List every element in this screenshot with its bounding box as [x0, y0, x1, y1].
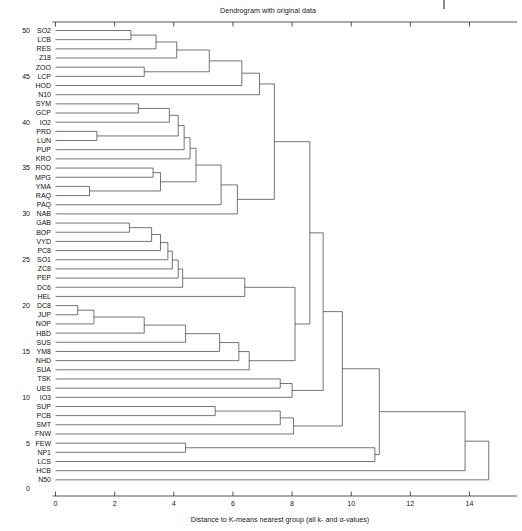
x-tick-label-4: 4 — [172, 499, 176, 508]
bottom-axis: 02468101214 — [53, 492, 518, 508]
leaf-index-tick-40: 40 — [22, 119, 30, 126]
leaf-label-so2: SO2 — [37, 27, 51, 34]
dendrogram-link — [56, 126, 185, 150]
leaf-index-tick-30: 30 — [22, 210, 30, 217]
dendrogram-link — [56, 131, 97, 140]
dendrogram-link — [56, 243, 168, 260]
leaf-label-dc6: DC6 — [37, 284, 51, 291]
leaf-label-n50: N50 — [38, 476, 51, 483]
leaf-label-hcb: HCB — [36, 467, 51, 474]
leaf-label-hel: HEL — [37, 293, 51, 300]
dendrogram-plot-area: Dendrogram with original data SO2LCBRESZ… — [0, 0, 522, 531]
leaf-label-pep: PEP — [37, 274, 51, 281]
leaf-label-gab: GAB — [36, 219, 51, 226]
leaf-label-z18: Z18 — [39, 54, 51, 61]
leaf-label-bop: BOP — [36, 229, 51, 236]
dendrogram-link — [56, 104, 139, 113]
dendrogram-link — [294, 312, 343, 426]
dendrogram-link — [56, 67, 145, 76]
dendrogram-link — [56, 384, 293, 398]
leaf-label-n10: N10 — [38, 91, 51, 98]
dendrogram-link — [56, 35, 157, 49]
dendrogram-link — [274, 142, 309, 324]
leaf-label-few: FEW — [35, 440, 51, 447]
leaf-index-tick-35: 35 — [22, 164, 30, 171]
dendrogram-link — [56, 379, 281, 388]
dendrogram-link — [56, 42, 177, 58]
leaf-label-nhd: NHD — [36, 357, 51, 364]
leaf-label-raq: RAQ — [36, 192, 52, 200]
leaf-label-fnw: FNW — [35, 430, 51, 437]
dendrogram-link — [56, 411, 281, 425]
leaf-index-tick-15: 15 — [22, 348, 30, 355]
dendrogram-link — [237, 84, 274, 199]
dendrogram-link — [56, 61, 242, 86]
leaf-label-rod: ROD — [35, 164, 51, 171]
leaf-label-sus: SUS — [37, 339, 52, 346]
leaf-label-paq: PAQ — [37, 201, 52, 209]
x-tick-label-8: 8 — [290, 499, 294, 508]
leaf-index-tick-45: 45 — [22, 73, 30, 80]
x-axis-label-group: Distance to K-means nearest group (all k… — [191, 515, 369, 524]
dendrogram-links — [56, 31, 489, 480]
dendrogram-link — [56, 108, 170, 122]
dendrogram-link — [56, 418, 294, 434]
leaf-label-pc8: PC8 — [37, 247, 51, 254]
dendrogram-link — [56, 448, 375, 462]
leaf-label-io3: IO3 — [40, 394, 51, 401]
dendrogram-link — [56, 310, 94, 324]
chart-title: Dendrogram with original data — [220, 6, 316, 15]
leaf-label-ues: UES — [37, 385, 52, 392]
x-tick-label-14: 14 — [466, 499, 474, 508]
leaf-index-tick-20: 20 — [22, 302, 30, 309]
leaf-label-gcp: GCP — [36, 109, 52, 116]
leaf-label-lcs: LCS — [37, 458, 51, 465]
x-axis-label: Distance to K-means nearest group (all k… — [191, 515, 369, 524]
dendrogram-link — [56, 306, 78, 315]
leaf-label-prd: PRD — [36, 128, 51, 135]
dendrogram-link — [56, 228, 152, 242]
leaf-label-io2: IO2 — [40, 119, 51, 126]
leaf-index-tick-50: 50 — [22, 27, 30, 34]
dendrogram-link — [245, 287, 295, 360]
x-tick-label-0: 0 — [54, 499, 58, 508]
dendrogram-link — [56, 168, 154, 177]
dendrogram-link — [56, 235, 161, 251]
leaf-label-res: RES — [37, 45, 52, 52]
top-axis — [53, 22, 518, 27]
leaf-label-pcb: PCB — [37, 412, 52, 419]
x-tick-label-2: 2 — [113, 499, 117, 508]
dendrogram-link — [90, 173, 161, 191]
leaf-label-hbd: HBD — [36, 330, 51, 337]
x-tick-label-10: 10 — [347, 499, 355, 508]
dendrogram-link — [56, 223, 130, 232]
dendrogram-link — [56, 317, 145, 333]
dendrogram-link — [292, 233, 323, 391]
dendrogram-link — [56, 406, 216, 415]
dendrogram-link — [56, 441, 489, 480]
dendrogram-link — [56, 31, 131, 40]
leaf-label-np1: NP1 — [37, 449, 51, 456]
leaf-label-jup: JUP — [38, 311, 52, 318]
dendrogram-link — [342, 369, 379, 455]
x-tick-label-12: 12 — [406, 499, 414, 508]
dendrogram-link — [97, 115, 178, 136]
leaf-label-pup: PUP — [37, 146, 52, 153]
leaf-label-nab: NAB — [37, 210, 52, 217]
leaf-label-vyd: VYD — [37, 238, 51, 245]
leaf-label-sup: SUP — [37, 403, 52, 410]
leaf-label-ym8: YM8 — [37, 348, 52, 355]
leaf-label-kro: KRO — [36, 155, 52, 162]
dendrogram-link — [56, 186, 90, 195]
leaf-index-ticks: 50454035302520151050 — [22, 27, 30, 493]
leaf-index-tick-5: 5 — [26, 440, 30, 447]
dendrogram-figure: Dendrogram with original data SO2LCBRESZ… — [0, 0, 522, 531]
leaf-label-lcp: LCP — [37, 73, 51, 80]
leaf-index-tick-0: 0 — [26, 485, 30, 492]
leaf-label-tsk: TSK — [37, 375, 51, 382]
x-tick-label-6: 6 — [231, 499, 235, 508]
dendrogram-link — [56, 185, 238, 214]
leaf-index-tick-25: 25 — [22, 256, 30, 263]
leaf-label-mpg: MPG — [35, 174, 51, 181]
leaf-label-lcb: LCB — [37, 36, 51, 43]
